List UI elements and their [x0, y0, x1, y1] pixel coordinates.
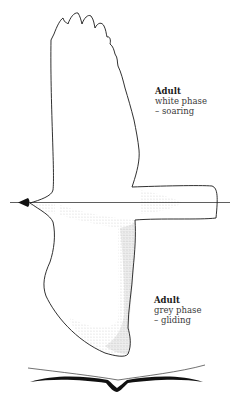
bird-illustration	[0, 0, 240, 394]
caption-phase: grey phase	[154, 305, 201, 315]
upper-wing-outline	[30, 13, 139, 203]
caption-title: Adult	[154, 295, 201, 305]
head-stipple	[25, 203, 55, 214]
head-on-silhouette	[28, 365, 205, 392]
beak-icon	[18, 198, 30, 207]
caption-flight-mode: – gliding	[154, 315, 201, 325]
caption-title: Adult	[155, 86, 207, 96]
caption-flight-mode: – soaring	[155, 106, 207, 116]
caption-white-phase-soaring: Adult white phase – soaring	[155, 86, 207, 116]
caption-grey-phase-gliding: Adult grey phase – gliding	[154, 295, 201, 325]
caption-phase: white phase	[155, 96, 207, 106]
